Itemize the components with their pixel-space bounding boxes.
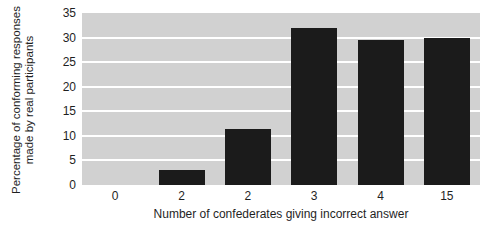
gridline-15 xyxy=(82,110,480,112)
y-tick-label-30: 30 xyxy=(0,31,76,45)
y-tick-label-0: 0 xyxy=(0,178,76,192)
bar-category-2-index-2 xyxy=(225,129,271,186)
x-tick-label-4: 4 xyxy=(347,189,413,203)
gridline-30 xyxy=(82,37,480,39)
y-tick-label-5: 5 xyxy=(0,153,76,167)
gridline-10 xyxy=(82,135,480,137)
x-axis-tick-labels: 0223415 xyxy=(82,189,480,203)
plot-area xyxy=(82,13,480,185)
bar-category-3-index-3 xyxy=(291,28,337,185)
x-tick-label-1: 2 xyxy=(148,189,214,203)
gridline-20 xyxy=(82,86,480,88)
y-tick-label-25: 25 xyxy=(0,55,76,69)
x-tick-label-5: 15 xyxy=(414,189,480,203)
y-tick-label-35: 35 xyxy=(0,6,76,20)
y-tick-label-15: 15 xyxy=(0,104,76,118)
y-tick-label-20: 20 xyxy=(0,80,76,94)
bar-category-2-index-1 xyxy=(159,170,205,185)
x-tick-label-3: 3 xyxy=(281,189,347,203)
bar-category-4-index-4 xyxy=(358,40,404,185)
bar-category-15-index-5 xyxy=(424,38,470,185)
x-axis-title: Number of confederates giving incorrect … xyxy=(82,207,480,221)
x-tick-label-2: 2 xyxy=(215,189,281,203)
y-tick-label-10: 10 xyxy=(0,129,76,143)
gridline-25 xyxy=(82,61,480,63)
bar-chart-figure: Percentage of conforming responses made … xyxy=(0,0,497,230)
gridline-5 xyxy=(82,159,480,161)
x-tick-label-0: 0 xyxy=(82,189,148,203)
y-axis-tick-labels: 05101520253035 xyxy=(0,13,76,185)
